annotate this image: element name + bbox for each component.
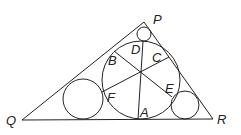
circle-left (63, 79, 103, 119)
label-e: E (165, 82, 174, 95)
chord-b-e (114, 51, 172, 97)
label-r: R (217, 113, 226, 126)
geometry-diagram: P Q R A B C D E F (0, 0, 241, 135)
label-a: A (140, 106, 149, 119)
label-c: C (152, 51, 161, 64)
small-circle-top (137, 27, 151, 41)
label-p: P (153, 13, 162, 26)
label-q: Q (6, 114, 16, 127)
triangle-pqr (22, 22, 213, 120)
label-f: F (107, 91, 115, 104)
label-b: B (108, 54, 117, 67)
label-d: D (131, 43, 140, 56)
diagram-canvas (0, 0, 241, 135)
circle-right (171, 91, 199, 119)
